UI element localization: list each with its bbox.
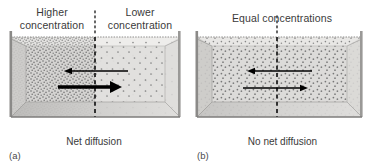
panel-a-letter: (a) <box>9 150 21 161</box>
diffusion-figure: Higher concentration Lower concentration <box>0 0 377 168</box>
panel-b-container-illustration <box>188 0 377 120</box>
panel-b-box-body <box>196 31 363 117</box>
panel-b-caption: No net diffusion <box>188 136 377 147</box>
panel-b: Equal concentrations <box>188 0 377 168</box>
panel-a: Higher concentration Lower concentration <box>0 0 188 168</box>
panel-a-container-illustration <box>0 0 188 120</box>
panel-a-caption: Net diffusion <box>0 136 188 147</box>
panel-b-letter: (b) <box>197 150 209 161</box>
